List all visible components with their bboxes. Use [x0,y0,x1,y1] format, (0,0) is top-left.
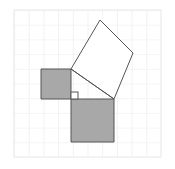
right-angle-marker-icon [71,92,78,99]
pythagorean-diagram [0,0,175,169]
small-shaded-square [41,69,71,99]
figure-container [0,0,175,169]
large-shaded-square [71,99,114,142]
